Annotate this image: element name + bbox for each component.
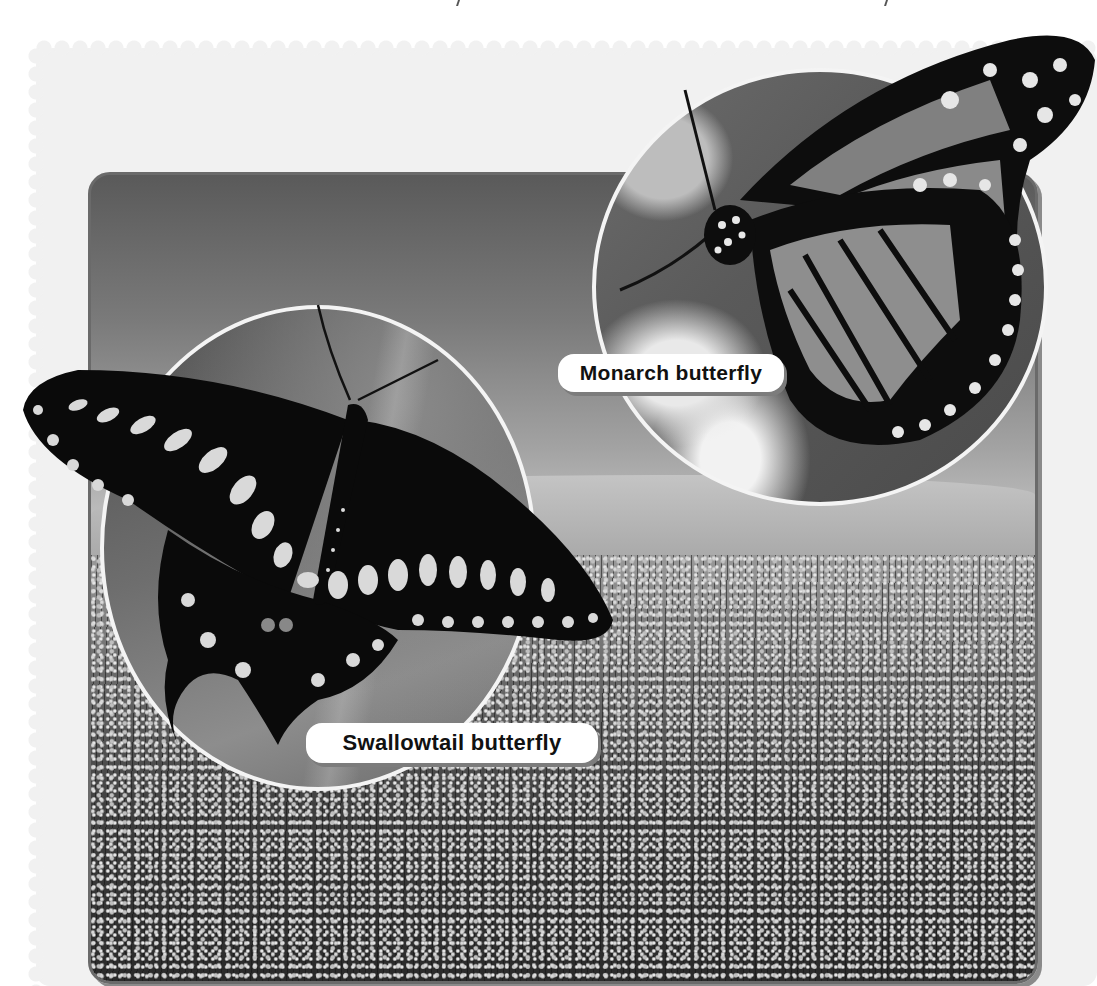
cropped-text-fragment: [450, 0, 462, 6]
cropped-text-fragment: [878, 0, 890, 6]
swallowtail-butterfly-image: [18, 300, 618, 750]
monarch-butterfly-image: [590, 20, 1097, 490]
swallowtail-butterfly-label: Swallowtail butterfly: [306, 723, 598, 763]
